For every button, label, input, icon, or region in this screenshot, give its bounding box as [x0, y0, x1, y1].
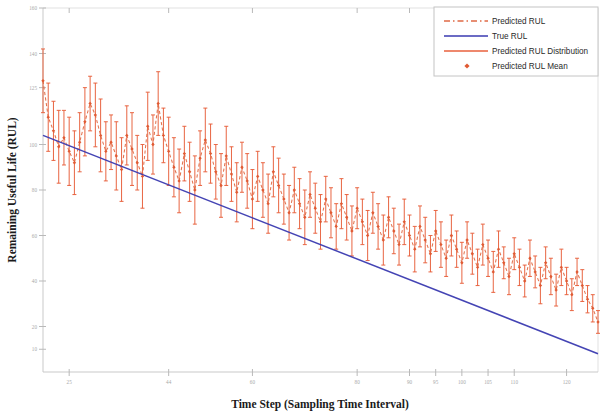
x-tick-label: 25: [67, 379, 73, 385]
mean-marker: [240, 166, 243, 169]
mean-marker: [47, 116, 50, 119]
mean-marker: [287, 211, 290, 214]
mean-marker: [596, 320, 599, 323]
y-tick-label: 100: [29, 142, 37, 148]
predicted-rul-distribution-errorbars: [41, 49, 600, 333]
mean-marker: [575, 270, 578, 273]
x-tick-label: 110: [510, 379, 518, 385]
mean-marker: [471, 252, 474, 255]
mean-marker: [151, 143, 154, 146]
legend: Predicted RULTrue RULPredicted RUL Distr…: [434, 7, 598, 76]
mean-marker: [465, 238, 468, 241]
mean-marker: [528, 257, 531, 260]
x-tick-label: 80: [355, 379, 361, 385]
mean-marker: [209, 152, 212, 155]
chart-figure: 1020406080100125140160 25446080909510010…: [0, 0, 605, 417]
mean-marker: [214, 170, 217, 173]
mean-marker: [544, 261, 547, 264]
mean-marker: [277, 184, 280, 187]
mean-marker: [429, 252, 432, 255]
mean-marker: [266, 202, 269, 205]
mean-marker: [282, 197, 285, 200]
mean-marker: [455, 247, 458, 250]
mean-marker: [303, 216, 306, 219]
mean-marker: [403, 220, 406, 223]
mean-marker: [94, 113, 97, 116]
mean-marker: [413, 247, 416, 250]
mean-marker: [251, 197, 254, 200]
mean-marker: [335, 225, 338, 228]
mean-marker: [439, 243, 442, 246]
mean-marker: [570, 293, 573, 296]
y-axis-title: Remaining Useful Life (RUL): [6, 117, 19, 263]
y-tick-label: 80: [32, 187, 38, 193]
mean-marker: [324, 197, 327, 200]
mean-marker: [533, 270, 536, 273]
mean-marker: [340, 202, 343, 205]
mean-marker: [183, 152, 186, 155]
mean-marker: [167, 150, 170, 153]
mean-marker: [382, 238, 385, 241]
mean-marker: [230, 172, 233, 175]
y-tick-label: 40: [32, 278, 38, 284]
mean-marker: [162, 134, 165, 137]
mean-marker: [130, 147, 133, 150]
y-tick-label: 125: [29, 85, 37, 91]
y-tick-label: 160: [29, 5, 37, 11]
mean-marker: [444, 257, 447, 260]
mean-marker: [272, 170, 275, 173]
mean-marker: [581, 284, 584, 287]
rul-prediction-chart: 1020406080100125140160 25446080909510010…: [0, 0, 605, 417]
mean-marker: [424, 238, 427, 241]
mean-marker: [371, 211, 374, 214]
mean-marker: [361, 220, 364, 223]
mean-marker: [560, 266, 563, 269]
x-tick-label: 90: [407, 379, 413, 385]
legend-label: Predicted RUL Mean: [492, 62, 568, 71]
mean-marker: [308, 193, 311, 196]
mean-marker: [366, 234, 369, 237]
mean-marker: [120, 168, 123, 171]
y-tick-label: 20: [32, 324, 38, 330]
mean-marker: [350, 229, 353, 232]
mean-marker: [225, 154, 228, 157]
mean-marker: [554, 288, 557, 291]
mean-marker: [62, 136, 65, 139]
x-tick-label: 44: [166, 379, 172, 385]
mean-marker: [450, 234, 453, 237]
x-axis-title: Time Step (Sampling Time Interval): [231, 398, 409, 411]
mean-marker: [345, 216, 348, 219]
mean-marker: [549, 275, 552, 278]
mean-marker: [177, 179, 180, 182]
mean-marker: [67, 150, 70, 153]
legend-label: Predicted RUL Distribution: [492, 47, 589, 56]
mean-marker: [434, 229, 437, 232]
mean-marker: [73, 161, 76, 164]
y-tick-label: 10: [32, 346, 38, 352]
y-tick-label: 60: [32, 233, 38, 239]
mean-marker: [418, 225, 421, 228]
x-tick-label: 120: [563, 379, 571, 385]
mean-marker: [125, 134, 128, 137]
mean-marker: [146, 125, 149, 128]
x-tick-label: 60: [250, 379, 256, 385]
mean-marker: [497, 247, 500, 250]
mean-marker: [256, 175, 259, 178]
mean-marker: [355, 207, 358, 210]
mean-marker: [523, 279, 526, 282]
mean-marker: [518, 266, 521, 269]
x-tick-label: 95: [433, 379, 439, 385]
mean-marker: [481, 243, 484, 246]
mean-marker: [245, 179, 248, 182]
mean-marker: [502, 261, 505, 264]
mean-marker: [88, 102, 91, 105]
mean-marker: [83, 120, 86, 123]
mean-marker: [136, 161, 139, 164]
y-tick-label: 140: [29, 51, 37, 57]
mean-marker: [204, 138, 207, 141]
mean-marker: [392, 229, 395, 232]
mean-marker: [513, 252, 516, 255]
mean-marker: [492, 270, 495, 273]
mean-marker: [539, 284, 542, 287]
mean-marker: [319, 220, 322, 223]
